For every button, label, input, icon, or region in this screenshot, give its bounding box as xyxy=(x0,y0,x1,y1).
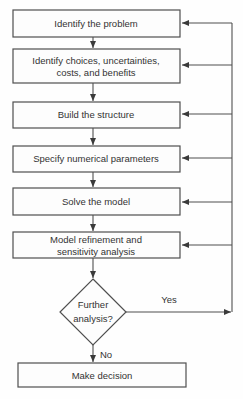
specify-parameters-label: Specify numerical parameters xyxy=(33,153,159,164)
node-specify-parameters: Specify numerical parameters xyxy=(13,146,180,172)
node-build-structure: Build the structure xyxy=(13,102,180,128)
node-further-analysis: Further analysis? xyxy=(60,279,126,345)
further-analysis-diamond xyxy=(60,279,126,345)
further-analysis-label-line2: analysis? xyxy=(73,313,113,324)
build-structure-label: Build the structure xyxy=(58,109,135,120)
make-decision-label: Make decision xyxy=(72,370,133,381)
node-identify-problem: Identify the problem xyxy=(13,10,180,37)
model-refinement-label-line2: sensitivity analysis xyxy=(57,246,135,257)
flowchart: Identify the problem Identify choices, u… xyxy=(0,0,243,399)
model-refinement-label-line1: Model refinement and xyxy=(50,234,142,245)
yes-edge-label: Yes xyxy=(161,294,177,305)
further-analysis-label-line1: Further xyxy=(78,299,109,310)
solve-model-label: Solve the model xyxy=(62,196,130,207)
no-edge-label: No xyxy=(100,349,112,360)
node-identify-choices: Identify choices, uncertainties, costs, … xyxy=(13,49,180,83)
node-solve-model: Solve the model xyxy=(13,188,180,215)
flowchart-canvas: Identify the problem Identify choices, u… xyxy=(0,0,243,399)
identify-problem-label: Identify the problem xyxy=(54,18,138,29)
node-make-decision: Make decision xyxy=(18,363,186,387)
identify-choices-label-line1: Identify choices, uncertainties, xyxy=(32,55,159,66)
identify-choices-label-line2: costs, and benefits xyxy=(56,67,135,78)
node-model-refinement: Model refinement and sensitivity analysi… xyxy=(13,232,180,258)
